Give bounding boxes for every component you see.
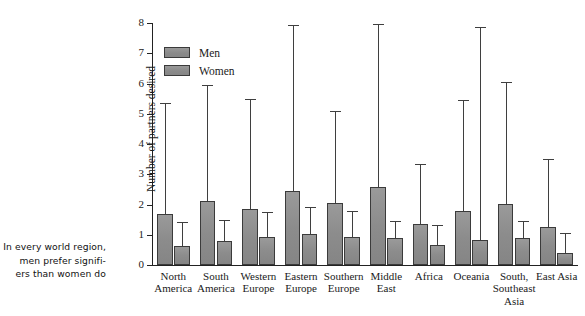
errorbar-cap-men-3 (245, 99, 256, 100)
y-tick-3 (147, 174, 152, 175)
y-tick-4 (147, 144, 152, 145)
y-tick-label-0: 0 (128, 259, 144, 270)
errorbar-line-women-7 (437, 225, 438, 245)
y-tick-label-2: 2 (128, 199, 144, 210)
y-axis-label: Number of partners desired (145, 34, 157, 224)
errorbar-line-men-4 (293, 25, 294, 191)
y-tick-label-7: 7 (128, 47, 144, 58)
bar-men-4 (285, 191, 301, 265)
errorbar-line-women-4 (310, 207, 311, 234)
errorbar-cap-women-7 (432, 225, 443, 226)
y-tick-2 (147, 205, 152, 206)
legend-swatch-men (164, 47, 190, 58)
bar-men-7 (413, 224, 429, 265)
errorbar-cap-women-6 (390, 221, 401, 222)
bar-women-2 (217, 241, 233, 265)
caption-line-1: In every world region, (0, 240, 106, 254)
bar-men-10 (540, 227, 556, 265)
plot-area: Number of partners desired 012345678 Men… (152, 23, 578, 265)
y-tick-label-6: 6 (128, 78, 144, 89)
y-tick-8 (147, 23, 152, 24)
errorbar-cap-men-8 (458, 100, 469, 101)
bar-men-3 (242, 209, 258, 265)
errorbar-cap-men-5 (330, 111, 341, 112)
errorbar-cap-men-1 (160, 103, 171, 104)
margin-caption: In every world region, men prefer signif… (0, 240, 106, 281)
errorbar-cap-women-3 (262, 212, 273, 213)
y-tick-0 (147, 265, 152, 266)
bar-women-5 (344, 237, 360, 265)
y-tick-label-8: 8 (128, 17, 144, 28)
errorbar-line-men-5 (335, 111, 336, 203)
x-axis-line (152, 265, 578, 266)
x-tick-label-10: East Asia (529, 270, 584, 282)
bar-men-5 (327, 203, 343, 265)
errorbar-line-women-6 (395, 221, 396, 238)
errorbar-line-men-10 (548, 159, 549, 227)
errorbar-line-men-7 (420, 164, 421, 224)
y-tick-label-5: 5 (128, 108, 144, 119)
errorbar-cap-women-1 (177, 222, 188, 223)
caption-line-2: men prefer signifi- (0, 254, 106, 268)
legend-label-women: Women (199, 65, 234, 77)
figure-bar-chart-partners-desired: In every world region, men prefer signif… (0, 0, 585, 316)
y-tick-6 (147, 84, 152, 85)
bar-men-6 (370, 187, 386, 265)
errorbar-line-women-3 (267, 212, 268, 237)
bar-women-3 (259, 237, 275, 265)
errorbar-line-men-2 (207, 85, 208, 201)
errorbar-line-men-3 (250, 99, 251, 209)
bar-men-1 (157, 214, 173, 265)
errorbar-cap-women-4 (305, 207, 316, 208)
errorbar-cap-women-5 (347, 211, 358, 212)
y-tick-label-1: 1 (128, 229, 144, 240)
errorbar-cap-men-6 (373, 24, 384, 25)
legend-swatch-women (164, 65, 190, 76)
errorbar-line-men-8 (463, 100, 464, 210)
errorbar-line-women-9 (523, 221, 524, 239)
caption-line-3: ers than women do (0, 267, 106, 281)
legend-item-women: Women (164, 63, 234, 78)
errorbar-line-women-2 (224, 220, 225, 241)
bar-women-8 (472, 240, 488, 265)
y-tick-7 (147, 53, 152, 54)
errorbar-cap-women-2 (219, 220, 230, 221)
errorbar-cap-women-9 (518, 221, 529, 222)
bar-women-9 (515, 238, 531, 265)
bar-women-7 (430, 245, 446, 265)
bar-men-9 (498, 204, 514, 265)
y-tick-5 (147, 114, 152, 115)
y-tick-1 (147, 235, 152, 236)
y-tick-label-3: 3 (128, 168, 144, 179)
legend-item-men: Men (164, 45, 234, 60)
errorbar-cap-men-7 (415, 164, 426, 165)
errorbar-line-men-9 (506, 82, 507, 204)
errorbar-line-women-1 (182, 222, 183, 246)
errorbar-line-women-10 (565, 233, 566, 253)
legend-label-men: Men (199, 47, 220, 59)
bar-women-1 (174, 246, 190, 265)
chart-legend: Men Women (164, 45, 234, 81)
bar-men-8 (455, 211, 471, 265)
errorbar-cap-men-9 (501, 82, 512, 83)
errorbar-line-women-5 (352, 211, 353, 238)
y-tick-label-4: 4 (128, 138, 144, 149)
bar-women-6 (387, 238, 403, 265)
errorbar-line-men-6 (378, 24, 379, 187)
errorbar-cap-women-10 (560, 233, 571, 234)
errorbar-cap-men-2 (202, 85, 213, 86)
bar-women-10 (557, 253, 573, 265)
errorbar-cap-men-10 (543, 159, 554, 160)
errorbar-line-men-1 (165, 103, 166, 214)
errorbar-cap-men-4 (288, 25, 299, 26)
bar-men-2 (200, 201, 216, 265)
errorbar-cap-women-8 (475, 27, 486, 28)
bar-women-4 (302, 234, 318, 265)
errorbar-line-women-8 (480, 27, 481, 240)
